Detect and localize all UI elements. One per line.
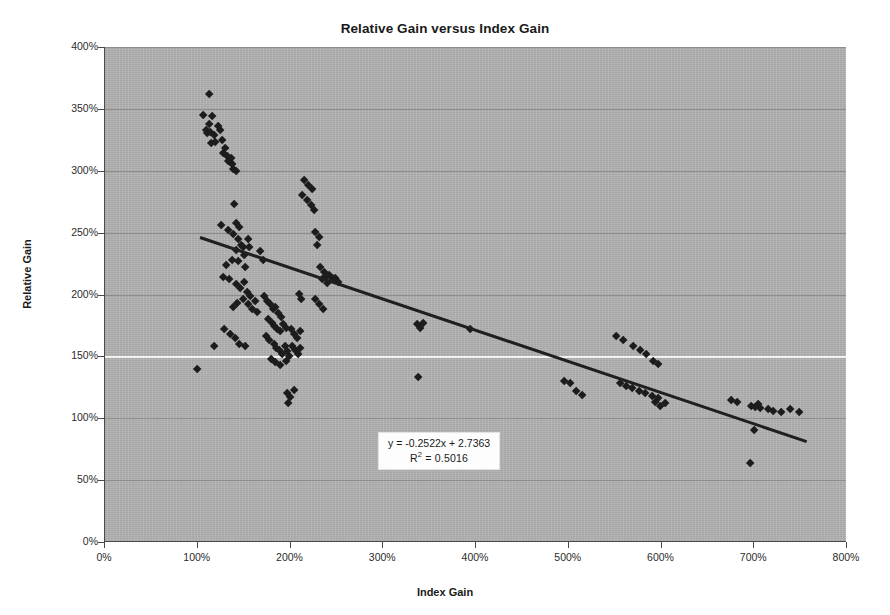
x-tick-mark-400 bbox=[475, 542, 476, 548]
x-tick-label-700: 700% bbox=[723, 551, 783, 563]
y-tick-label-100: 100% bbox=[28, 411, 98, 423]
trendline-equation-box: y = -0.2522x + 2.7363 R2 = 0.5016 bbox=[378, 432, 500, 470]
y-tick-label-50: 50% bbox=[28, 473, 98, 485]
x-tick-mark-300 bbox=[382, 542, 383, 548]
x-tick-label-800: 800% bbox=[816, 551, 876, 563]
plot-area: y = -0.2522x + 2.7363 R2 = 0.5016 bbox=[104, 47, 846, 542]
gridline-y-150 bbox=[104, 356, 846, 358]
x-tick-label-400: 400% bbox=[445, 551, 505, 563]
x-tick-mark-200 bbox=[290, 542, 291, 548]
x-tick-mark-100 bbox=[197, 542, 198, 548]
x-tick-mark-0 bbox=[104, 542, 105, 548]
gridline-y-250 bbox=[104, 233, 846, 234]
y-tick-label-200: 200% bbox=[28, 288, 98, 300]
gridline-y-50 bbox=[104, 480, 846, 481]
r2-value: = 0.5016 bbox=[422, 452, 468, 464]
x-tick-label-500: 500% bbox=[538, 551, 598, 563]
chart-container: Relative Gain versus Index Gain Relative… bbox=[0, 0, 890, 615]
r2-prefix: R bbox=[410, 452, 418, 464]
x-tick-label-300: 300% bbox=[352, 551, 412, 563]
gridline-y-350 bbox=[104, 109, 846, 110]
x-tick-label-200: 200% bbox=[260, 551, 320, 563]
trendline-equation: y = -0.2522x + 2.7363 bbox=[388, 436, 490, 450]
x-axis-label: Index Gain bbox=[0, 586, 890, 598]
y-tick-label-0: 0% bbox=[28, 535, 98, 547]
x-tick-mark-800 bbox=[846, 542, 847, 548]
gridline-y-400 bbox=[104, 47, 846, 48]
y-tick-label-250: 250% bbox=[28, 226, 98, 238]
y-tick-label-150: 150% bbox=[28, 349, 98, 361]
trendline-r-squared: R2 = 0.5016 bbox=[388, 450, 490, 465]
x-tick-mark-600 bbox=[661, 542, 662, 548]
x-tick-mark-700 bbox=[753, 542, 754, 548]
gridline-y-300 bbox=[104, 171, 846, 172]
x-tick-label-600: 600% bbox=[631, 551, 691, 563]
x-tick-mark-500 bbox=[568, 542, 569, 548]
y-tick-label-300: 300% bbox=[28, 164, 98, 176]
y-tick-label-350: 350% bbox=[28, 102, 98, 114]
y-tick-label-400: 400% bbox=[28, 40, 98, 52]
x-tick-label-100: 100% bbox=[167, 551, 227, 563]
x-tick-label-0: 0% bbox=[74, 551, 134, 563]
chart-title: Relative Gain versus Index Gain bbox=[0, 21, 890, 36]
gridline-y-200 bbox=[104, 295, 846, 296]
